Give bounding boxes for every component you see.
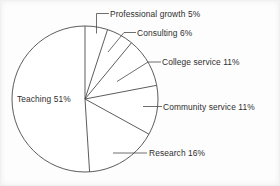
- slice-label-research: Research 16%: [149, 148, 206, 158]
- slice-label-professional-growth: Professional growth 5%: [110, 9, 201, 19]
- pie-chart-canvas: Professional growth 5% Consulting 6% Col…: [0, 0, 280, 186]
- pie-chart-figure: Professional growth 5% Consulting 6% Col…: [0, 0, 280, 186]
- slice-label-consulting: Consulting 6%: [137, 28, 193, 38]
- slice-label-college-service: College service 11%: [162, 57, 240, 67]
- slice-label-teaching: Teaching 51%: [17, 94, 71, 104]
- slice-label-community-service: Community service 11%: [163, 102, 255, 112]
